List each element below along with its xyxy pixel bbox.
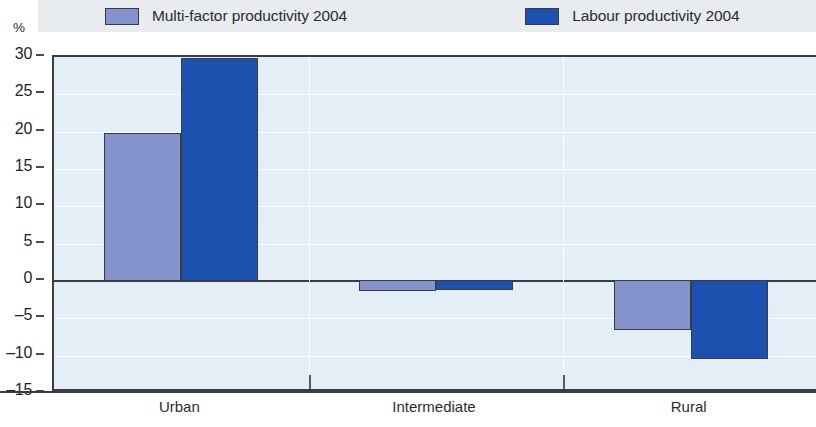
axis-bottom-rule	[0, 391, 816, 393]
y-axis-tick	[36, 129, 44, 131]
x-axis-labels: UrbanIntermediateRural	[52, 398, 816, 427]
y-axis-tick-label: –5	[15, 306, 32, 324]
legend-item-labour-productivity: Labour productivity 2004	[525, 7, 739, 25]
bar-intermediate-mfp	[359, 280, 436, 291]
category-separator	[309, 57, 310, 389]
x-axis-label-intermediate: Intermediate	[392, 398, 475, 415]
x-axis-label-urban: Urban	[159, 398, 200, 415]
legend-label-mfp: Multi-factor productivity 2004	[152, 7, 347, 25]
chart-legend: Multi-factor productivity 2004 Labour pr…	[38, 0, 816, 32]
y-axis-labels: 302520151050–5–10–15	[0, 55, 44, 391]
plot-area	[52, 55, 816, 391]
y-axis-tick	[36, 91, 44, 93]
legend-label-labour: Labour productivity 2004	[572, 7, 739, 25]
x-axis-tick	[309, 375, 311, 389]
y-axis-tick-label: 10	[15, 194, 32, 212]
y-axis-tick-label: –15	[6, 381, 32, 399]
plot-area-wrapper	[52, 55, 816, 391]
y-axis-tick-label: –10	[6, 344, 32, 362]
y-axis-tick-label: 30	[15, 45, 32, 63]
y-axis-tick	[36, 241, 44, 243]
x-axis-tick	[563, 375, 565, 389]
gridline	[54, 94, 816, 95]
y-axis-tick-label: 15	[15, 157, 32, 175]
y-axis-tick	[36, 278, 44, 280]
y-axis-tick-label: 20	[15, 120, 32, 138]
category-separator	[563, 57, 564, 389]
y-axis-tick-label: 25	[15, 82, 32, 100]
y-axis-tick	[36, 54, 44, 56]
y-axis-tick-label: 5	[23, 232, 32, 250]
legend-swatch-mfp-icon	[105, 8, 139, 25]
y-axis-tick	[36, 315, 44, 317]
legend-item-multi-factor-productivity: Multi-factor productivity 2004	[105, 7, 347, 25]
y-axis-tick-label: 0	[23, 269, 32, 287]
y-axis-tick	[36, 203, 44, 205]
bar-urban-mfp	[104, 133, 181, 281]
y-axis-tick	[36, 353, 44, 355]
bar-intermediate-labour	[436, 280, 513, 290]
legend-swatch-labour-icon	[525, 8, 559, 25]
bar-rural-mfp	[614, 280, 691, 330]
y-axis-unit-label: %	[13, 20, 25, 35]
bar-rural-labour	[691, 280, 768, 359]
bar-urban-labour	[181, 58, 258, 281]
x-axis-label-rural: Rural	[671, 398, 707, 415]
y-axis-tick	[36, 166, 44, 168]
